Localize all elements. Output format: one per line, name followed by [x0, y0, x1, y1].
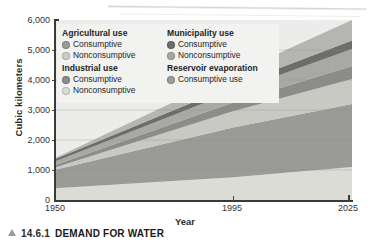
- legend-entry-label: Nonconsumptive: [73, 85, 135, 96]
- triangle-marker-icon: [8, 229, 16, 236]
- legend-group-title: Reservoir evaporation: [167, 63, 274, 74]
- legend-entry-reservoir-consumptive-use[interactable]: Consumptive use: [167, 74, 274, 85]
- scan-artifact-line-secondary: [120, 13, 360, 18]
- y-tick-label-5000: 5,000: [16, 46, 50, 55]
- legend-group-agricultural-use: Agricultural use Consumptive Nonconsumpt…: [62, 28, 165, 61]
- legend-swatch-icon: [62, 52, 70, 60]
- legend-entry-industrial-consumptive[interactable]: Consumptive: [62, 74, 165, 85]
- x-tick-label-1950: 1950: [45, 203, 65, 213]
- y-tick-label-2000: 2,000: [16, 136, 50, 145]
- legend-group-title: Industrial use: [62, 63, 165, 74]
- y-tick-label-4000: 4,000: [16, 76, 50, 85]
- legend-group-title: Municipality use: [167, 28, 274, 39]
- y-tick-label-1000: 1,000: [16, 166, 50, 175]
- legend-entry-agricultural-consumptive[interactable]: Consumptive: [62, 39, 165, 50]
- chart-legend: Agricultural use Consumptive Nonconsumpt…: [57, 24, 279, 103]
- x-axis-line: [54, 200, 353, 202]
- caption-number: 14.6.1: [21, 228, 50, 239]
- legend-entry-label: Consumptive use: [178, 74, 243, 85]
- legend-group-reservoir-evaporation: Reservoir evaporation Consumptive use: [167, 63, 274, 96]
- caption-text: DEMAND FOR WATER: [55, 228, 164, 239]
- scan-artifact-line: [108, 5, 366, 11]
- legend-entry-municipality-consumptive[interactable]: Consumptive: [167, 39, 274, 50]
- legend-group-industrial-use: Industrial use Consumptive Nonconsumptiv…: [62, 63, 165, 96]
- y-tick-label-3000: 3,000: [16, 106, 50, 115]
- legend-group-municipality-use: Municipality use Consumptive Nonconsumpt…: [167, 28, 274, 61]
- figure-demand-for-water: Cubic kilometers 6,000 5,000 4,000 3,000…: [0, 0, 370, 250]
- legend-entry-industrial-nonconsumptive[interactable]: Nonconsumptive: [62, 85, 165, 96]
- legend-swatch-icon: [62, 76, 70, 84]
- x-tick-mark-1995: [233, 196, 234, 201]
- y-axis-line: [54, 19, 56, 201]
- legend-entry-label: Nonconsumptive: [73, 50, 135, 61]
- legend-swatch-icon: [167, 76, 175, 84]
- legend-group-title: Agricultural use: [62, 28, 165, 39]
- legend-entry-agricultural-nonconsumptive[interactable]: Nonconsumptive: [62, 50, 165, 61]
- y-axis-top-cap: [54, 19, 59, 21]
- legend-swatch-icon: [167, 52, 175, 60]
- figure-caption: 14.6.1 DEMAND FOR WATER: [8, 228, 164, 239]
- legend-swatch-icon: [62, 41, 70, 49]
- legend-entry-municipality-nonconsumptive[interactable]: Nonconsumptive: [167, 50, 274, 61]
- legend-swatch-icon: [62, 87, 70, 95]
- legend-entry-label: Consumptive: [73, 74, 122, 85]
- x-tick-label-2025: 2025: [338, 203, 358, 213]
- x-axis-title: Year: [0, 216, 370, 227]
- legend-entry-label: Consumptive: [73, 39, 122, 50]
- y-tick-label-6000: 6,000: [16, 16, 50, 25]
- x-axis-end-cap: [348, 195, 350, 201]
- legend-entry-label: Nonconsumptive: [178, 50, 240, 61]
- legend-swatch-icon: [167, 41, 175, 49]
- x-tick-label-1995: 1995: [222, 203, 242, 213]
- legend-entry-label: Consumptive: [178, 39, 227, 50]
